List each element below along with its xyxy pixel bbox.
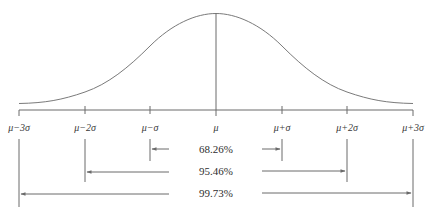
label-mu: μ xyxy=(212,122,218,133)
label-mu-minus-sigma: μ−σ xyxy=(141,122,160,133)
label-mu-minus-2sigma: μ−2σ xyxy=(73,122,97,133)
label-mu-plus-2sigma: μ+2σ xyxy=(335,122,359,133)
interval-68-label: 68.26% xyxy=(199,143,233,155)
label-mu-minus-3sigma: μ−3σ xyxy=(7,122,31,133)
interval-95-label: 95.46% xyxy=(199,165,233,177)
normal-distribution-diagram: μ−3σ μ−2σ μ−σ μ μ+σ μ+2σ μ+3σ 68.26% 95.… xyxy=(0,0,429,218)
interval-99-label: 99.73% xyxy=(199,187,233,199)
label-mu-plus-3sigma: μ+3σ xyxy=(401,122,425,133)
label-mu-plus-sigma: μ+σ xyxy=(273,122,292,133)
axis-labels: μ−3σ μ−2σ μ−σ μ μ+σ μ+2σ μ+3σ xyxy=(7,122,425,133)
